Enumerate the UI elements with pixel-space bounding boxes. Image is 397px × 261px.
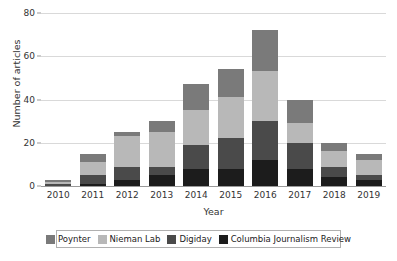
bar-segment[interactable]: [183, 110, 209, 145]
legend-swatch-icon: [167, 235, 176, 244]
stacked-bar-chart: Number of articles 020406080 20102011201…: [0, 0, 397, 261]
bar-segment[interactable]: [149, 167, 175, 176]
y-tick-label: 80: [24, 8, 35, 18]
legend-label: Columbia Journalism Review: [231, 234, 351, 244]
y-axis-title: Number of articles: [11, 24, 22, 144]
legend-label: Poynter: [58, 234, 91, 244]
bar-stack[interactable]: [356, 13, 382, 186]
bar-segment[interactable]: [321, 143, 347, 152]
legend-label: Digiday: [179, 234, 211, 244]
bar-stack[interactable]: [183, 13, 209, 186]
bar-segment[interactable]: [252, 160, 278, 186]
bar-stack[interactable]: [287, 13, 313, 186]
bar-stack[interactable]: [321, 13, 347, 186]
x-tick-label: 2018: [321, 190, 347, 204]
y-tick-label: 0: [29, 181, 35, 191]
bar-segment[interactable]: [80, 162, 106, 175]
legend-swatch-icon: [98, 235, 107, 244]
x-tick-label: 2013: [149, 190, 175, 204]
bar-segment[interactable]: [252, 71, 278, 121]
bar-segment[interactable]: [287, 143, 313, 169]
legend-label: Nieman Lab: [110, 234, 161, 244]
bar-stack[interactable]: [218, 13, 244, 186]
legend-item[interactable]: Digiday: [167, 234, 211, 244]
chart-legend: PoynterNieman LabDigidayColumbia Journal…: [56, 230, 341, 248]
bar-segment[interactable]: [183, 84, 209, 110]
x-tick-label: 2011: [80, 190, 106, 204]
x-tick-label: 2017: [287, 190, 313, 204]
bar-segment[interactable]: [218, 138, 244, 168]
bar-stack[interactable]: [80, 13, 106, 186]
legend-swatch-icon: [219, 235, 228, 244]
bar-segment[interactable]: [114, 167, 140, 180]
y-tick-label: 60: [24, 51, 35, 61]
bar-stack[interactable]: [114, 13, 140, 186]
bar-segment[interactable]: [218, 169, 244, 186]
x-tick-label: 2014: [183, 190, 209, 204]
bar-stack[interactable]: [252, 13, 278, 186]
bar-segment[interactable]: [114, 136, 140, 166]
bar-segment[interactable]: [287, 123, 313, 142]
x-axis-line: [41, 186, 386, 187]
bar-segment[interactable]: [321, 151, 347, 166]
bar-segment[interactable]: [287, 100, 313, 124]
bar-segment[interactable]: [183, 169, 209, 186]
bar-segment[interactable]: [218, 69, 244, 97]
bar-segment[interactable]: [80, 175, 106, 184]
bar-segment[interactable]: [252, 121, 278, 160]
plot-area: 020406080: [41, 13, 386, 186]
bar-segment[interactable]: [149, 132, 175, 167]
legend-swatch-icon: [46, 235, 55, 244]
bar-segment[interactable]: [218, 97, 244, 138]
x-tick-label: 2019: [356, 190, 382, 204]
x-axis-tick-labels: 2010201120122013201420152016201720182019: [41, 190, 386, 204]
bar-stack[interactable]: [149, 13, 175, 186]
bar-segment[interactable]: [287, 169, 313, 186]
x-axis-title: Year: [41, 206, 386, 217]
y-tick-label: 20: [24, 138, 35, 148]
bar-segment[interactable]: [80, 154, 106, 163]
y-tick-label: 40: [24, 95, 35, 105]
x-tick-label: 2012: [114, 190, 140, 204]
bar-segment[interactable]: [356, 160, 382, 175]
bar-segment[interactable]: [149, 175, 175, 186]
bar-segment[interactable]: [183, 145, 209, 169]
bar-stack[interactable]: [45, 13, 71, 186]
legend-item[interactable]: Nieman Lab: [98, 234, 161, 244]
bar-segment[interactable]: [252, 30, 278, 71]
legend-item[interactable]: Columbia Journalism Review: [219, 234, 351, 244]
bar-segment[interactable]: [149, 121, 175, 132]
x-tick-label: 2015: [218, 190, 244, 204]
x-tick-label: 2016: [252, 190, 278, 204]
bar-segment[interactable]: [321, 167, 347, 178]
legend-item[interactable]: Poynter: [46, 234, 91, 244]
bar-segment[interactable]: [321, 177, 347, 186]
bar-group: [41, 13, 386, 186]
x-tick-label: 2010: [45, 190, 71, 204]
y-axis-title-wrapper: Number of articles: [0, 0, 14, 200]
